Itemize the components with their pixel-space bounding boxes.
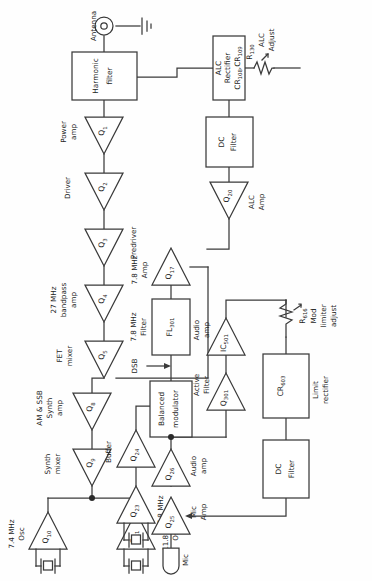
r616-caption-1: Mod (309, 308, 318, 323)
block-cr603-limit-rectifier[interactable]: CR603 Limit rectifier (263, 354, 330, 418)
microphone-symbol[interactable]: Mic (163, 548, 190, 574)
amp-q5-fet-mixer[interactable]: Q5 FET mixer (55, 341, 123, 378)
dsb-signal-marker: DSB (130, 358, 171, 373)
alc-rectifier-label-2: Rectifier (223, 52, 232, 84)
q3-caption-1: Predriver (129, 227, 138, 260)
junction-dot-modulator (168, 434, 174, 440)
amp-q24-buffer[interactable]: Q24 Buffer (104, 430, 155, 467)
q301-caption-1: Active (192, 373, 201, 396)
crystal-icon (124, 549, 148, 573)
amp-q9-synth-mixer[interactable]: Q9 Synth mixer (43, 449, 111, 486)
block-harmonic-filter[interactable]: Harmonic filter (72, 52, 137, 100)
ic501-caption-1: Audio (192, 320, 201, 340)
amp-q20-alc-amp[interactable]: Q20 ALC Amp (210, 182, 266, 219)
amp-q2-driver[interactable]: Q2 Driver (63, 173, 123, 210)
amp-q10-osc[interactable]: Q10 7.4 MHz Osc (7, 512, 67, 573)
crystal-icon (36, 549, 60, 573)
resistor-icon (254, 54, 274, 74)
block-dc-filter-alc[interactable]: DC Filter (206, 117, 253, 167)
q4-caption-3: amp (69, 292, 78, 308)
ic501-caption-2: amp (202, 322, 211, 338)
amp-q301-active-filter[interactable]: Q301 Active Filter (192, 373, 245, 410)
q8-caption-2: Synth (45, 398, 54, 419)
q20-caption-2: Amp (257, 193, 266, 210)
arrow-icon (164, 363, 171, 369)
q10-caption-1: 7.4 MHz (7, 519, 16, 548)
cr603-caption-2: rectifier (321, 376, 330, 404)
q26-caption-2: amp (199, 458, 208, 474)
r616-caption-3: adjust (329, 305, 338, 327)
q17-caption-2: Amp (140, 261, 149, 278)
q4-caption-2: bandpass (59, 282, 68, 317)
alc-rectifier-label-1: ALC (214, 61, 223, 75)
harmonic-filter-label-2: filter (105, 66, 114, 84)
r130-caption-2: Adjust (267, 29, 276, 52)
block-balanced-modulator[interactable]: Balanced modulator (150, 381, 192, 437)
amp-q1-power-amp[interactable]: Q1 Power amp (59, 117, 123, 154)
fl301-caption-1: 7.8 MHz (129, 312, 138, 341)
resistor-r616-mod-limiter-adjust[interactable]: R616 Mod limiter adjust (280, 300, 338, 337)
microphone-icon (163, 548, 179, 574)
ground-icon (142, 18, 151, 34)
amp-q8-synth-amp[interactable]: Q8 AM & SSB Synth amp (35, 390, 111, 430)
q17-caption-1: 7.8 MHz (130, 255, 139, 284)
q24-caption-1: Buffer (104, 441, 113, 463)
block-dc-filter-mod[interactable]: DC Filter (263, 440, 309, 498)
q4-caption-1: 27 MHz (49, 286, 58, 313)
r130-caption-1: ALC (257, 33, 266, 47)
q9-caption-2: mixer (53, 454, 62, 474)
q1-caption-2: amp (69, 124, 78, 140)
dc-filter-alc-label-2: Filter (229, 132, 238, 151)
dc-filter-mod-label-2: Filter (287, 459, 296, 478)
fl301-caption-2: Filter (139, 318, 148, 336)
q26-caption-1: Audio (189, 456, 198, 476)
r130-ref: R130 (245, 44, 255, 60)
q20-caption-1: ALC (247, 195, 256, 209)
balanced-modulator-label-1: Balanced (157, 392, 166, 426)
antenna-connector-center-icon (101, 23, 107, 29)
dc-filter-mod-label-1: DC (274, 464, 283, 475)
q5-caption-1: FET (55, 349, 64, 363)
r616-ref: R616 (298, 308, 308, 324)
dc-filter-alc-label-1: DC (217, 137, 226, 148)
resistor-icon (280, 300, 301, 337)
amp-q17-78mhz-amp[interactable]: Q17 7.8 MHz Amp (130, 248, 190, 285)
block-fl301-filter[interactable]: FL301 7.8 MHz Filter (129, 299, 190, 355)
q5-caption-2: mixer (65, 346, 74, 366)
antenna-label: Antenna (89, 11, 98, 41)
mic-label: Mic (181, 554, 190, 566)
harmonic-filter-label-1: Harmonic (91, 58, 100, 94)
junction-dot-synth (89, 495, 95, 501)
diagram-canvas: Antenna Harmonic filter Q1 Power amp Q2 … (0, 0, 372, 581)
amp-q4-bandpass-amp[interactable]: Q4 27 MHz bandpass amp (49, 282, 123, 322)
dsb-label: DSB (130, 358, 139, 373)
block-alc-rectifier[interactable]: ALC Rectifier CR108,CR109 (213, 36, 245, 100)
balanced-modulator-label-2: modulator (171, 389, 180, 428)
q2-caption-1: Driver (63, 177, 72, 199)
q301-caption-2: Filter (202, 376, 211, 394)
block-diagram: Antenna Harmonic filter Q1 Power amp Q2 … (0, 0, 372, 581)
q9-caption-1: Synth (43, 454, 52, 475)
q1-caption-1: Power (59, 121, 68, 143)
q8-caption-1: AM & SSB (35, 390, 44, 425)
amp-ic501-audio-amp[interactable]: IC501 Audio amp (192, 318, 245, 355)
r616-caption-2: limiter (319, 304, 328, 327)
q10-caption-2: Osc (17, 527, 26, 540)
resistor-r130-alc-adjust[interactable]: R130 ALC Adjust (245, 29, 276, 74)
q25-caption-2: Amp (199, 503, 208, 520)
q8-caption-3: amp (55, 400, 64, 416)
cr603-caption-1: Limit (311, 381, 320, 399)
amp-q26-audio-amp[interactable]: Q26 Audio amp (152, 449, 208, 486)
